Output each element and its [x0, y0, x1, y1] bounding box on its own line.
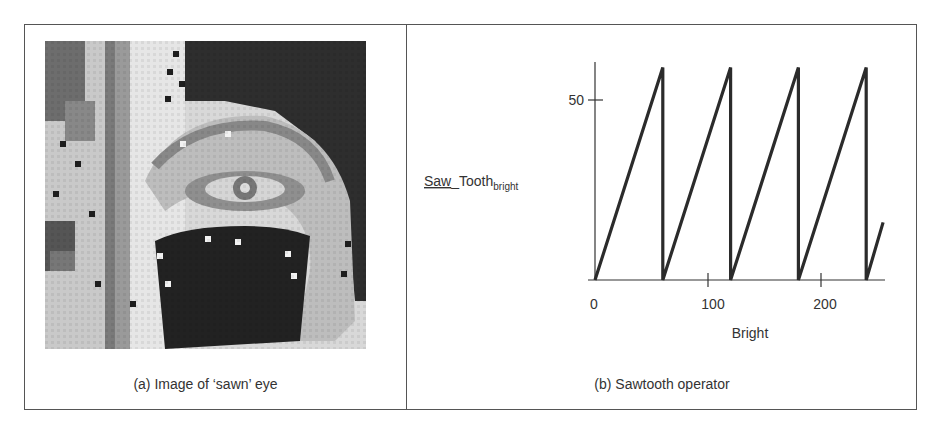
x-tick-label-100: 100: [701, 296, 725, 312]
ylabel-subscript: bright: [493, 181, 518, 192]
sawtooth-line: [595, 68, 883, 280]
ylabel-underlined: Saw: [424, 173, 452, 189]
sawtooth-chart: Saw_Toothbright 50 0 100 200 Bright: [0, 0, 940, 434]
y-axis-label: Saw_Toothbright: [424, 173, 519, 192]
caption-panel-b: (b) Sawtooth operator: [407, 376, 917, 392]
svg-text:Saw_Toothbright: Saw_Toothbright: [424, 173, 519, 192]
ylabel-rest: _Tooth: [450, 173, 493, 189]
x-tick-label-200: 200: [813, 296, 837, 312]
y-tick-label-50: 50: [568, 92, 584, 108]
x-tick-label-0: 0: [590, 296, 598, 312]
x-axis-label: Bright: [732, 325, 769, 341]
